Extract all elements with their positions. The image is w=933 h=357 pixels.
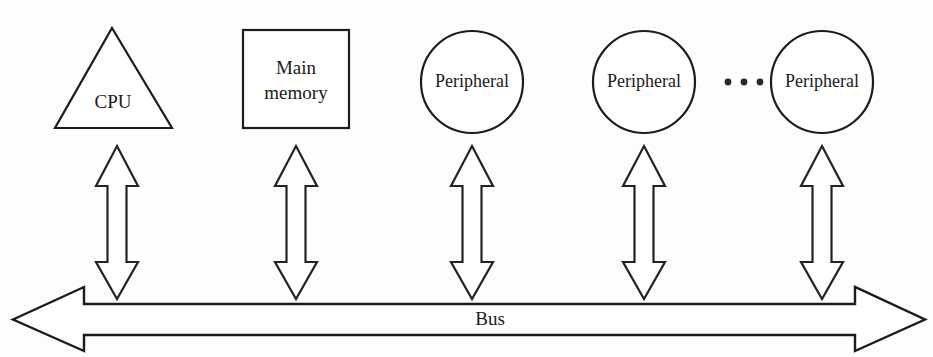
connector-peripheral-3-double-arrow bbox=[801, 146, 843, 299]
connector-peripheral-1-double-arrow bbox=[451, 146, 493, 299]
ellipsis-dot-1 bbox=[725, 79, 732, 86]
bus-architecture-diagram: CPU Main memory Peripheral Peripheral Pe… bbox=[0, 0, 933, 357]
main-memory-label-line-1: Main bbox=[276, 57, 317, 78]
connector-main-memory bbox=[275, 146, 317, 299]
peripheral-2-label: Peripheral bbox=[607, 71, 681, 91]
main-memory-square-shape bbox=[243, 30, 349, 128]
main-memory-label-line-2: memory bbox=[264, 82, 328, 103]
node-main-memory: Main memory bbox=[243, 30, 349, 128]
bus: Bus bbox=[13, 287, 925, 351]
ellipsis-dot-3 bbox=[757, 79, 764, 86]
node-peripheral-2: Peripheral bbox=[593, 31, 695, 133]
bus-double-arrow-shape bbox=[13, 287, 925, 351]
peripheral-1-label: Peripheral bbox=[435, 71, 509, 91]
connector-cpu-double-arrow bbox=[96, 146, 138, 299]
connector-peripheral-2-double-arrow bbox=[623, 146, 665, 299]
connector-peripheral-1 bbox=[451, 146, 493, 299]
ellipsis-icon bbox=[725, 79, 764, 86]
peripheral-3-label: Peripheral bbox=[785, 71, 859, 91]
diagram-canvas: CPU Main memory Peripheral Peripheral Pe… bbox=[0, 0, 933, 357]
connector-peripheral-2 bbox=[623, 146, 665, 299]
node-peripheral-1: Peripheral bbox=[421, 31, 523, 133]
cpu-label: CPU bbox=[95, 91, 132, 112]
node-peripheral-3: Peripheral bbox=[771, 31, 873, 133]
cpu-triangle-shape bbox=[55, 28, 172, 128]
connector-peripheral-3 bbox=[801, 146, 843, 299]
ellipsis-dot-2 bbox=[741, 79, 748, 86]
connector-main-memory-double-arrow bbox=[275, 146, 317, 299]
bus-label: Bus bbox=[475, 308, 505, 329]
node-cpu: CPU bbox=[55, 28, 172, 128]
connector-cpu bbox=[96, 146, 138, 299]
